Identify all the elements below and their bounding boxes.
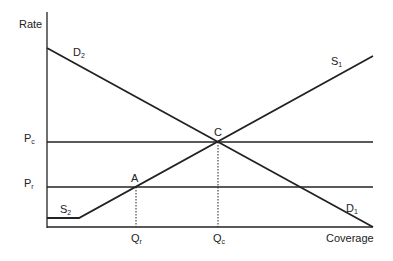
qc-label: Qc xyxy=(213,232,225,245)
point-a-label: A xyxy=(131,172,138,184)
qr-label: Qr xyxy=(131,232,142,245)
d1-label: D1 xyxy=(346,202,358,215)
s2-label: S2 xyxy=(60,203,71,216)
pc-label: Pc xyxy=(24,132,35,145)
diagram-canvas xyxy=(0,0,393,261)
s1-label: S1 xyxy=(331,55,342,68)
demand-curve xyxy=(47,48,373,227)
d2-label: D2 xyxy=(73,46,85,59)
supply-demand-diagram: Rate Coverage D2 D1 S1 S2 Pc Pr Qr Qc A … xyxy=(0,0,393,261)
x-axis-label: Coverage xyxy=(326,232,374,244)
point-c-label: C xyxy=(214,126,222,138)
pr-label: Pr xyxy=(24,177,34,190)
y-axis-label: Rate xyxy=(19,18,42,30)
